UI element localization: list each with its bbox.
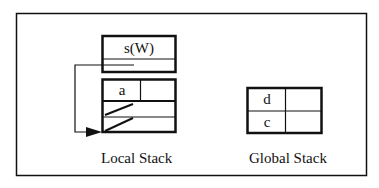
cell-c: c: [248, 114, 286, 130]
arrowhead-icon: [86, 127, 102, 137]
local-stack-label: Local Stack: [101, 150, 172, 166]
cell-a: a: [103, 82, 141, 98]
cell-d: d: [248, 91, 286, 107]
cell-sW: s(W): [102, 40, 176, 56]
global-stack-label: Global Stack: [249, 150, 327, 166]
